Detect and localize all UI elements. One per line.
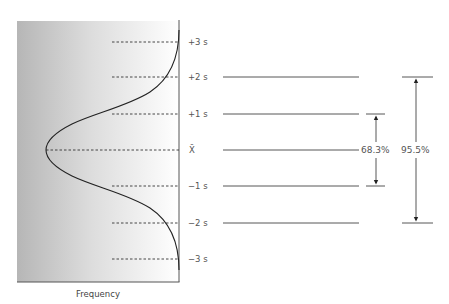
range-95-label: 95.5% <box>401 145 430 155</box>
frequency-panel <box>17 21 179 282</box>
arrow-up-icon <box>414 79 418 84</box>
label-p1: +1 s <box>188 109 208 119</box>
normal-distribution-diagram: +3 s +2 s +1 s X̄ −1 s −2 s −3 s 68.3% 9… <box>0 0 449 304</box>
arrow-up-icon <box>374 116 378 121</box>
range-68-label: 68.3% <box>361 145 390 155</box>
label-p2: +2 s <box>188 72 208 82</box>
x-axis-label: Frequency <box>76 289 120 299</box>
arrow-down-icon <box>414 217 418 222</box>
label-m1: −1 s <box>188 181 208 191</box>
arrow-down-icon <box>374 180 378 185</box>
label-p3: +3 s <box>188 37 208 47</box>
label-mean: X̄ <box>189 144 195 155</box>
level-reference-lines <box>223 77 359 223</box>
label-m3: −3 s <box>188 254 208 264</box>
level-labels: +3 s +2 s +1 s X̄ −1 s −2 s −3 s <box>188 37 208 264</box>
label-m2: −2 s <box>188 218 208 228</box>
